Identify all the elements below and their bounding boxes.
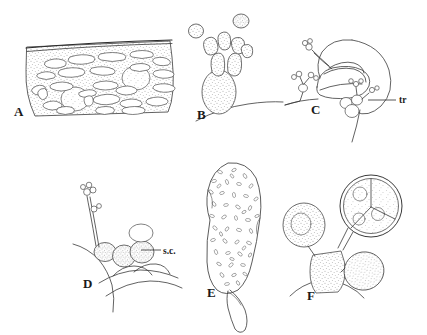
panel-c-lower-cell-2	[352, 95, 363, 105]
panel-d-apex-bud-3	[86, 182, 92, 188]
panel-d-stalk-bud-mid	[91, 206, 97, 212]
panel-b-branch-left	[211, 53, 225, 76]
panel-c-annotation-tr: tr	[399, 95, 407, 105]
panel-c-left-bud-2	[292, 75, 297, 80]
panel-b-detached-spore-1	[189, 24, 204, 38]
panel-b-terminal-cell-4	[241, 44, 252, 57]
panel-c-left-bud-3	[308, 72, 314, 78]
panel-c-left-bud-1	[296, 71, 302, 77]
panel-letter-e: E	[207, 285, 216, 300]
panel-c-stalk-bud-2	[302, 40, 307, 45]
panel-f-trunk-cell	[310, 251, 345, 293]
panel-d-stalk-bud-mid-2	[97, 204, 102, 209]
plate-canvas: A B	[0, 0, 427, 335]
panel-a-group: A	[14, 38, 180, 123]
panel-f-small-body-left	[283, 203, 325, 247]
panel-c-lower-cell-3	[345, 105, 359, 118]
panel-d-apex-bud-2	[90, 187, 96, 193]
panel-letter-c: C	[311, 102, 320, 117]
panel-d-apex-bud-4	[81, 185, 86, 190]
panel-letter-d: D	[83, 276, 92, 291]
panel-c-lower-bud-5	[375, 86, 379, 90]
panel-d-spore-cell-3	[130, 241, 154, 263]
panel-c-lower-bud-4	[369, 87, 374, 92]
panel-c-left-bud-4	[314, 76, 319, 81]
panel-d-annotation-sc: s.c.	[163, 246, 176, 256]
panel-c-left-cell	[299, 84, 308, 92]
panel-c-lower-bud-3	[359, 79, 364, 84]
panel-c-stalk-bud-3	[308, 39, 313, 44]
panel-b-basal-cell	[202, 70, 236, 114]
panel-d-apex-bud-1	[84, 189, 91, 196]
panel-b-terminal-cell-1	[204, 37, 219, 55]
panel-b-detached-spore-2	[233, 14, 249, 28]
panel-d-vesicle	[129, 224, 153, 242]
panel-letter-f: F	[307, 288, 315, 303]
panel-letter-a: A	[14, 104, 24, 119]
panel-letter-b: B	[197, 107, 206, 122]
figure-plate: A B	[0, 0, 427, 335]
panel-c-lower-bud-1	[353, 81, 358, 86]
panel-c-lower-bud-2	[349, 79, 354, 84]
panel-b-branch-right	[228, 53, 242, 76]
panel-b-terminal-cell-2	[218, 32, 231, 50]
